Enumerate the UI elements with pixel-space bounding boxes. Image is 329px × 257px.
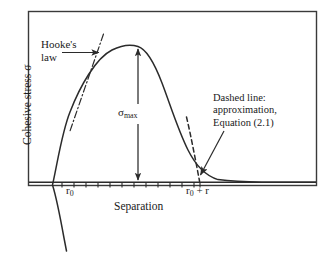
r0-plus-r-tail: + r xyxy=(194,184,209,196)
r0-subscript: 0 xyxy=(70,189,74,198)
hookes-law-line2: law xyxy=(41,51,57,63)
sigma-max-subscript: max xyxy=(124,111,138,120)
cohesive-stress-figure: Hooke'slaw Dashed line:approximation,Equ… xyxy=(0,0,329,257)
x-axis-title: Separation xyxy=(114,200,163,214)
dashed-note-line3: Equation (2.1) xyxy=(213,117,274,128)
sigma-max-label: σmax xyxy=(118,106,138,120)
r0-plus-r-axis-label: r0 + r xyxy=(186,184,209,198)
cohesive-stress-curve-tail xyxy=(53,185,67,251)
r0-axis-label: r0 xyxy=(66,184,74,198)
hookes-law-label: Hooke'slaw xyxy=(41,38,77,64)
y-axis-title: Cohesive stress σ xyxy=(21,25,35,185)
hookes-law-line1: Hooke's xyxy=(41,38,77,50)
dashed-approximation-label: Dashed line:approximation,Equation (2.1) xyxy=(213,92,277,129)
dashed-note-line2: approximation, xyxy=(213,104,277,115)
dashed-note-line1: Dashed line: xyxy=(213,92,266,103)
